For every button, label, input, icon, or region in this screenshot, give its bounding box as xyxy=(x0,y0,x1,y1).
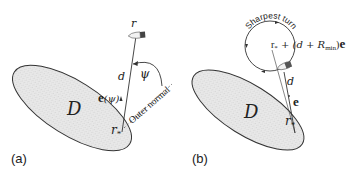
midpoint-dot xyxy=(288,95,290,97)
panel-a: r d ψ D e(ψ) r* Outer normal xyxy=(0,17,172,167)
panel-a-label: (a) xyxy=(11,151,27,166)
panel-b: Sharpest turn r* + (d + Rmin)e d e D r* xyxy=(180,10,345,165)
panel-b-label: (b) xyxy=(192,151,208,166)
vehicle-icon xyxy=(128,32,145,39)
angle-label: ψ xyxy=(140,67,150,81)
vehicle-icon xyxy=(276,61,292,72)
distance-label: d xyxy=(287,75,294,88)
vehicle-label: r xyxy=(131,17,137,30)
figure-canvas: r d ψ D e(ψ) r* Outer normal Sharpe xyxy=(0,0,357,177)
region-label: D xyxy=(66,98,82,119)
direction-label: e(ψ) xyxy=(98,90,120,105)
center-formula: r* + (d + Rmin)e xyxy=(271,36,345,52)
outer-normal-label: Outer normal xyxy=(127,84,172,125)
region-label: D xyxy=(243,101,259,122)
direction-arrow-icon xyxy=(119,96,122,101)
direction-label: e xyxy=(293,94,299,109)
distance-label: d xyxy=(118,70,125,83)
